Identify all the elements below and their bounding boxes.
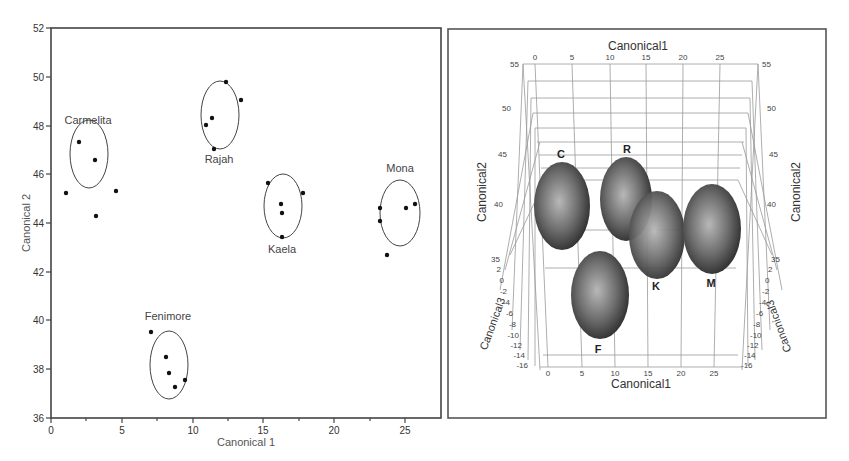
svg-text:0: 0	[546, 369, 551, 378]
svg-text:55: 55	[510, 60, 519, 69]
svg-text:40: 40	[33, 315, 45, 326]
svg-text:5: 5	[580, 369, 585, 378]
svg-text:25: 25	[710, 369, 719, 378]
label-m: M	[706, 277, 715, 289]
svg-text:0: 0	[533, 53, 538, 62]
svg-text:15: 15	[257, 425, 269, 436]
svg-text:-6: -6	[506, 309, 514, 318]
x-axis-label-top: Canonical1	[608, 39, 668, 53]
svg-text:2: 2	[768, 265, 773, 274]
svg-text:10: 10	[187, 425, 199, 436]
svg-text:40: 40	[494, 200, 503, 209]
svg-text:10: 10	[606, 53, 615, 62]
svg-text:40: 40	[767, 200, 776, 209]
svg-text:15: 15	[644, 369, 653, 378]
label-rajah: Rajah	[205, 153, 234, 165]
svg-text:5: 5	[570, 53, 575, 62]
svg-text:-4: -4	[759, 298, 767, 307]
label-carmelita: Carmelita	[64, 114, 112, 126]
svg-text:-8: -8	[753, 320, 761, 329]
svg-text:46: 46	[33, 169, 45, 180]
label-f: F	[595, 343, 602, 355]
svg-text:50: 50	[33, 72, 45, 83]
canonical-scatter-plot: 52 50 48 46 44 42 40 38 36 0 5 10 15 20 …	[0, 0, 446, 461]
svg-text:35: 35	[771, 255, 780, 264]
svg-text:45: 45	[769, 150, 778, 159]
svg-text:-10: -10	[750, 331, 762, 340]
svg-text:50: 50	[502, 104, 511, 113]
svg-text:48: 48	[33, 121, 45, 132]
label-r: R	[623, 143, 631, 155]
y-tick-labels: 52 50 48 46 44 42 40 38 36	[33, 23, 45, 424]
svg-text:20: 20	[679, 53, 688, 62]
scatter-svg: 52 50 48 46 44 42 40 38 36 0 5 10 15 20 …	[0, 0, 446, 461]
svg-text:36: 36	[33, 413, 45, 424]
x-axis-label-bottom: Canonical1	[611, 377, 671, 391]
canonical-3d-plot: Canonical1 Canonical1 Canonical2 Canonic…	[446, 0, 849, 461]
svg-text:5: 5	[119, 425, 125, 436]
svg-text:55: 55	[762, 60, 771, 69]
svg-text:15: 15	[642, 53, 651, 62]
svg-text:-4: -4	[503, 298, 511, 307]
label-mona: Mona	[386, 162, 414, 174]
svg-text:50: 50	[767, 104, 776, 113]
svg-text:-10: -10	[507, 331, 519, 340]
plot3d-svg: Canonical1 Canonical1 Canonical2 Canonic…	[446, 0, 849, 461]
svg-text:-16: -16	[741, 361, 753, 370]
svg-text:0: 0	[500, 276, 505, 285]
y-axis-label-right: Canonical2	[789, 162, 803, 222]
svg-text:-2: -2	[500, 287, 508, 296]
svg-text:-8: -8	[509, 320, 517, 329]
svg-text:-14: -14	[744, 351, 756, 360]
svg-text:0: 0	[48, 425, 54, 436]
svg-text:-14: -14	[513, 351, 525, 360]
svg-text:25: 25	[716, 53, 725, 62]
x-axis-label: Canonical 1	[217, 436, 275, 448]
svg-text:42: 42	[33, 267, 45, 278]
svg-text:35: 35	[491, 255, 500, 264]
svg-text:45: 45	[498, 150, 507, 159]
x-tick-labels: 0 5 10 15 20 25	[48, 425, 411, 436]
svg-text:-12: -12	[747, 341, 759, 350]
svg-text:2: 2	[497, 265, 502, 274]
svg-text:52: 52	[33, 23, 45, 34]
svg-text:-2: -2	[762, 287, 770, 296]
svg-text:-12: -12	[510, 341, 522, 350]
label-k: K	[652, 280, 660, 292]
y-axis-label: Canonical 2	[20, 194, 32, 252]
label-fenimore: Fenimore	[145, 310, 191, 322]
y-axis-label-left: Canonical2	[475, 162, 489, 222]
label-c: C	[557, 148, 565, 160]
svg-text:20: 20	[328, 425, 340, 436]
plot-frame	[51, 28, 441, 418]
label-kaela: Kaela	[268, 243, 297, 255]
svg-text:20: 20	[677, 369, 686, 378]
svg-text:10: 10	[611, 369, 620, 378]
svg-text:-6: -6	[756, 309, 764, 318]
svg-text:-16: -16	[516, 361, 528, 370]
svg-text:38: 38	[33, 364, 45, 375]
svg-text:0: 0	[765, 276, 770, 285]
svg-text:44: 44	[33, 218, 45, 229]
svg-text:25: 25	[399, 425, 411, 436]
